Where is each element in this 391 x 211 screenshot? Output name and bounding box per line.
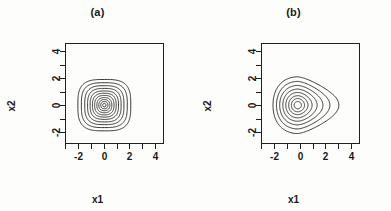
y-tick-label: -2 [51,128,62,137]
y-tick-label: -2 [247,128,258,137]
contour-line [291,99,304,112]
panel-b: (b) x2 x1 -2024-2024 [196,0,391,211]
x-tick-label: 4 [153,151,159,162]
y-tick-label: 0 [51,102,62,108]
y-tick-label: 2 [247,75,258,81]
panel-b-plot: -2024-2024 [196,0,391,211]
contour-plot-figure: (a) x2 x1 -2024-2024 (b) x2 x1 -2024-202… [0,0,391,211]
contour-line [81,83,127,128]
x-tick-label: 2 [323,151,329,162]
contour-line [85,86,124,125]
contour-line [92,93,116,117]
y-tick-label: 4 [51,48,62,54]
x-tick-label: -2 [74,151,83,162]
x-tick-label: -2 [270,151,279,162]
contour-line [101,102,108,109]
contour-line [103,103,106,107]
contour-line [277,81,330,129]
x-tick-label: 0 [298,151,304,162]
contour-line [294,102,301,109]
y-tick-label: 0 [247,102,258,108]
x-tick-label: 4 [349,151,355,162]
x-tick-label: 0 [102,151,108,162]
panel-a: (a) x2 x1 -2024-2024 [0,0,195,211]
contour-line [95,95,114,114]
y-tick-label: 4 [247,48,258,54]
x-tick-label: 2 [127,151,133,162]
y-tick-label: 2 [51,75,62,81]
panel-a-plot: -2024-2024 [0,0,195,211]
